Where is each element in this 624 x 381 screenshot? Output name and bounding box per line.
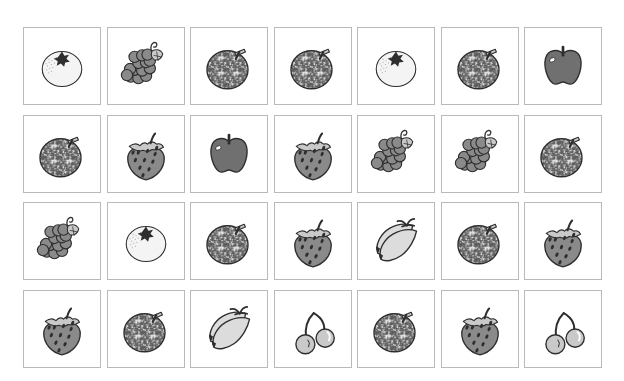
fruit-card[interactable] (524, 290, 602, 368)
fruit-card[interactable] (190, 290, 268, 368)
fruit-card[interactable] (441, 27, 519, 105)
fruit-card[interactable] (23, 290, 101, 368)
banana-icon (358, 203, 434, 279)
fruit-card[interactable] (107, 115, 185, 193)
orange-textured-icon (442, 28, 518, 104)
orange-textured-icon (24, 116, 100, 192)
cherry-icon (275, 291, 351, 367)
fruit-card[interactable] (524, 115, 602, 193)
strawberry-icon (275, 116, 351, 192)
strawberry-icon (108, 116, 184, 192)
orange-light-icon (358, 28, 434, 104)
fruit-card[interactable] (357, 290, 435, 368)
grapes-icon (24, 203, 100, 279)
cherry-icon (525, 291, 601, 367)
strawberry-icon (442, 291, 518, 367)
fruit-card[interactable] (23, 202, 101, 280)
fruit-card[interactable] (441, 202, 519, 280)
fruit-card[interactable] (23, 115, 101, 193)
fruit-card[interactable] (190, 27, 268, 105)
orange-light-icon (24, 28, 100, 104)
orange-textured-icon (275, 28, 351, 104)
fruit-card[interactable] (107, 27, 185, 105)
fruit-card[interactable] (524, 202, 602, 280)
fruit-card[interactable] (23, 27, 101, 105)
grapes-icon (358, 116, 434, 192)
orange-textured-icon (442, 203, 518, 279)
orange-textured-icon (525, 116, 601, 192)
fruit-card[interactable] (107, 202, 185, 280)
orange-textured-icon (191, 203, 267, 279)
fruit-card[interactable] (190, 202, 268, 280)
grapes-icon (108, 28, 184, 104)
strawberry-icon (275, 203, 351, 279)
fruit-card-grid (0, 0, 624, 381)
fruit-card[interactable] (274, 115, 352, 193)
fruit-card[interactable] (274, 202, 352, 280)
fruit-card[interactable] (357, 202, 435, 280)
banana-icon (191, 291, 267, 367)
strawberry-icon (24, 291, 100, 367)
fruit-card[interactable] (190, 115, 268, 193)
apple-icon (525, 28, 601, 104)
orange-textured-icon (191, 28, 267, 104)
orange-textured-icon (358, 291, 434, 367)
fruit-card[interactable] (524, 27, 602, 105)
orange-textured-icon (108, 291, 184, 367)
fruit-card[interactable] (107, 290, 185, 368)
fruit-card[interactable] (274, 290, 352, 368)
fruit-card[interactable] (357, 27, 435, 105)
apple-icon (191, 116, 267, 192)
grapes-icon (442, 116, 518, 192)
fruit-card[interactable] (357, 115, 435, 193)
strawberry-icon (525, 203, 601, 279)
fruit-card[interactable] (441, 115, 519, 193)
orange-light-icon (108, 203, 184, 279)
fruit-card[interactable] (274, 27, 352, 105)
fruit-card[interactable] (441, 290, 519, 368)
